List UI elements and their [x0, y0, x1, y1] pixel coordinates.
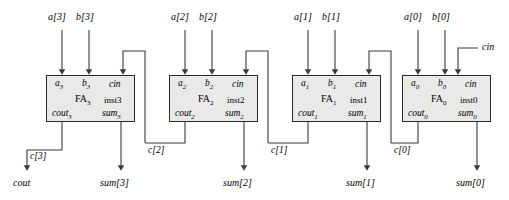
wire-cout2-to-c2: [145, 122, 185, 143]
fa0-port-cout: cout0: [408, 109, 428, 121]
output-label-sum3: sum[3]: [100, 178, 129, 188]
wire-cout0-to-c0: [391, 122, 418, 143]
external-cin-label: cin: [482, 42, 494, 52]
fa2-instance: inst2: [227, 96, 245, 105]
fa2-port-sum: sum2: [225, 109, 244, 121]
fa0-port-cin: cin: [465, 80, 477, 90]
input-label-a0: a[0]: [404, 12, 422, 22]
fa1-port-cout: cout1: [298, 109, 318, 121]
wire-cin-to-fa0-cin: [458, 48, 478, 72]
fa1-instance: inst1: [350, 96, 368, 105]
fa1-port-sum: sum1: [348, 109, 367, 121]
output-label-sum1: sum[1]: [346, 178, 375, 188]
fa2-port-cin: cin: [232, 80, 244, 90]
fa1-port-cin: cin: [355, 80, 367, 90]
fa3-port-sum: sum3: [102, 109, 121, 121]
carry-label-c0: c[0]: [394, 146, 410, 156]
fa3-port-a: a3: [55, 79, 63, 91]
input-label-b2: b[2]: [199, 12, 217, 22]
circuit-diagram: a3 b3 cin FA3 inst3 cout3 sum3 a2 b2 cin…: [0, 0, 509, 200]
fa3-port-cout: cout3: [52, 109, 72, 121]
fa-block-3[interactable]: a3 b3 cin FA3 inst3 cout3 sum3: [46, 75, 135, 122]
input-label-a3: a[3]: [48, 12, 66, 22]
fa3-port-b: b3: [82, 79, 90, 91]
fa0-port-sum: sum0: [458, 109, 477, 121]
fa-block-2[interactable]: a2 b2 cin FA2 inst2 cout2 sum2: [169, 75, 258, 122]
input-label-a2: a[2]: [171, 12, 189, 22]
carry-label-c1: c[1]: [271, 146, 287, 156]
fa0-name: FA0: [431, 94, 447, 107]
wire-cout1-to-c1: [268, 122, 308, 143]
fa3-port-cin: cin: [109, 80, 121, 90]
fa1-name: FA1: [321, 94, 337, 107]
fa0-port-b: b0: [438, 79, 446, 91]
fa3-instance: inst3: [104, 96, 122, 105]
fa-block-0[interactable]: a0 b0 cin FA0 inst0 cout0 sum0: [402, 75, 491, 122]
fa2-port-cout: cout2: [175, 109, 195, 121]
fa2-name: FA2: [198, 94, 214, 107]
output-label-cout: cout: [13, 178, 30, 188]
fa0-port-a: a0: [411, 79, 419, 91]
input-label-b3: b[3]: [76, 12, 94, 22]
input-label-b0: b[0]: [432, 12, 450, 22]
input-label-a1: a[1]: [294, 12, 312, 22]
input-label-b1: b[1]: [322, 12, 340, 22]
fa2-port-a: a2: [178, 79, 186, 91]
fa3-name: FA3: [75, 94, 91, 107]
output-label-sum0: sum[0]: [456, 178, 485, 188]
fa1-port-b: b1: [328, 79, 336, 91]
fa2-port-b: b2: [205, 79, 213, 91]
fa-block-1[interactable]: a1 b1 cin FA1 inst1 cout1 sum1: [292, 75, 381, 122]
carry-label-c2: c[2]: [148, 146, 164, 156]
carry-label-c3: c[3]: [30, 152, 46, 162]
fa1-port-a: a1: [301, 79, 309, 91]
output-label-sum2: sum[2]: [223, 178, 252, 188]
fa0-instance: inst0: [460, 96, 478, 105]
